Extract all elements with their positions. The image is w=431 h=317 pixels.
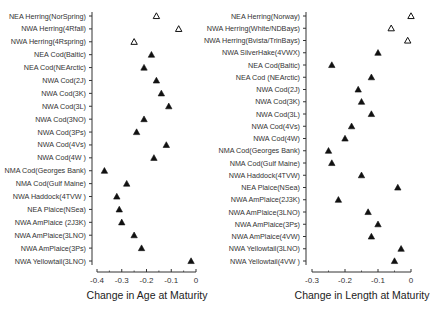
- filled-triangle-marker-icon: [163, 142, 169, 148]
- category-label: NWA AmPlaice (2J3K): [15, 218, 86, 227]
- filled-triangle-marker-icon: [153, 77, 159, 83]
- category-label: NWA Haddock(4TVW): [229, 171, 300, 180]
- category-label: NWA AmPlaice(3Ps): [21, 244, 86, 253]
- category-label: NWA Cod(3Ps): [38, 128, 86, 137]
- category-label: NWA Cod(2J): [42, 76, 86, 85]
- open-triangle-marker-icon: [405, 37, 411, 43]
- x-tick-label: -0.3: [305, 276, 319, 285]
- category-label: NWA AmPlaice(3LNO): [228, 208, 300, 217]
- filled-triangle-marker-icon: [151, 155, 157, 161]
- filled-triangle-marker-icon: [358, 99, 364, 105]
- filled-triangle-marker-icon: [141, 64, 147, 70]
- filled-triangle-marker-icon: [375, 50, 381, 56]
- filled-triangle-marker-icon: [329, 62, 335, 68]
- category-label: NEA Plaice(NSea): [27, 205, 86, 214]
- filled-triangle-marker-icon: [342, 135, 348, 141]
- category-label: NWA Herring(4Rspring): [11, 37, 86, 46]
- category-label: NEA Herring(NorSpring): [9, 12, 86, 21]
- category-label: NEA Cod(Baltic): [34, 50, 86, 59]
- filled-triangle-marker-icon: [116, 206, 122, 212]
- open-triangle-marker-icon: [131, 39, 137, 45]
- filled-triangle-marker-icon: [368, 111, 374, 117]
- category-label: NWA Cod(2J): [256, 85, 300, 94]
- category-label: NWA Cod(3K): [255, 97, 300, 106]
- x-tick-label: -0.2: [338, 276, 352, 285]
- filled-triangle-marker-icon: [124, 180, 130, 186]
- filled-triangle-marker-icon: [133, 129, 139, 135]
- filled-triangle-marker-icon: [101, 168, 107, 174]
- category-label: NWA Cod(4Vs): [252, 122, 300, 131]
- x-tick-label: 0: [194, 276, 199, 285]
- category-label: NWA Herring(White/NDBays): [207, 24, 300, 33]
- open-triangle-marker-icon: [153, 13, 159, 19]
- open-triangle-marker-icon: [408, 13, 414, 19]
- category-label: NWA Cod(3L): [42, 102, 86, 111]
- category-label: NWA Yellowtail(3LNO): [229, 244, 300, 253]
- category-label: NWA Herring(Bvista/TrinBays): [204, 36, 300, 45]
- category-label: NEA Cod (NEArctic): [236, 73, 300, 82]
- category-label: NWA Cod(3L): [256, 110, 300, 119]
- filled-triangle-marker-icon: [329, 160, 335, 166]
- filled-triangle-marker-icon: [138, 245, 144, 251]
- x-tick-label: 0: [409, 276, 414, 285]
- x-tick-label: -0.1: [371, 276, 385, 285]
- filled-triangle-marker-icon: [358, 172, 364, 178]
- category-label: NEA Cod(NEArctic): [24, 63, 86, 72]
- category-label: NWA Herring(4Rfall): [21, 24, 86, 33]
- filled-triangle-marker-icon: [158, 90, 164, 96]
- filled-triangle-marker-icon: [119, 219, 125, 225]
- filled-triangle-marker-icon: [395, 184, 401, 190]
- x-tick-label: -0.2: [140, 276, 154, 285]
- category-label: NWA Haddock(4TVW ): [13, 192, 86, 201]
- category-label: NEA Herring(Norway): [231, 12, 300, 21]
- x-tick-label: -0.1: [164, 276, 178, 285]
- x-axis-title: Change in Length at Maturity: [295, 289, 431, 301]
- category-label: NWA AmPlaice(3Ps): [235, 220, 300, 229]
- category-label: NWA Cod(3NO): [35, 115, 86, 124]
- filled-triangle-marker-icon: [335, 197, 341, 203]
- category-label: NWA Cod(3K): [41, 89, 86, 98]
- category-label: NWA Cod(4W ): [37, 153, 86, 162]
- filled-triangle-marker-icon: [391, 258, 397, 264]
- filled-triangle-marker-icon: [355, 86, 361, 92]
- category-label: NWA Cod(4Vs): [38, 140, 86, 149]
- category-label: NMA Cod(Georges Bank): [5, 166, 87, 175]
- category-label: NMA Cod(Gulf Maine): [230, 159, 300, 168]
- category-label: NWA SilverHake(4VWX): [222, 48, 300, 57]
- filled-triangle-marker-icon: [368, 233, 374, 239]
- x-tick-label: -0.4: [90, 276, 104, 285]
- open-triangle-marker-icon: [388, 25, 394, 31]
- filled-triangle-marker-icon: [188, 258, 194, 264]
- filled-triangle-marker-icon: [368, 74, 374, 80]
- filled-triangle-marker-icon: [348, 123, 354, 129]
- category-label: NWA AmPlaice(4VW): [232, 232, 300, 241]
- category-label: NWA AmPlaice(2J3K): [231, 195, 300, 204]
- chart-panel-2: NEA Herring(Norway)NWA Herring(White/NDB…: [204, 12, 430, 302]
- category-label: NEA Cod(Baltic): [248, 61, 300, 70]
- filled-triangle-marker-icon: [148, 51, 154, 57]
- filled-triangle-marker-icon: [131, 232, 137, 238]
- filled-triangle-marker-icon: [141, 116, 147, 122]
- filled-triangle-marker-icon: [365, 209, 371, 215]
- filled-triangle-marker-icon: [375, 221, 381, 227]
- category-label: NWA AmPlaice(3LNO): [14, 231, 86, 240]
- filled-triangle-marker-icon: [114, 193, 120, 199]
- chart-panel-1: NEA Herring(NorSpring)NWA Herring(4Rfall…: [5, 12, 209, 302]
- x-tick-label: -0.3: [115, 276, 129, 285]
- x-axis-title: Change in Age at Maturity: [87, 289, 209, 301]
- category-label: NEA Plaice(NSea): [241, 183, 300, 192]
- category-label: NWA Yellowtail(3LNO): [15, 257, 86, 266]
- filled-triangle-marker-icon: [166, 103, 172, 109]
- category-label: NWA Yellowtail(4VW ): [230, 257, 300, 266]
- open-triangle-marker-icon: [175, 26, 181, 32]
- filled-triangle-marker-icon: [398, 246, 404, 252]
- category-label: NMA Cod(Gulf Maine): [16, 179, 86, 188]
- filled-triangle-marker-icon: [325, 148, 331, 154]
- category-label: NWA Cod(4W): [253, 134, 300, 143]
- category-label: NMA Cod(Georges Bank): [219, 146, 301, 155]
- maturity-change-charts: NEA Herring(NorSpring)NWA Herring(4Rfall…: [0, 0, 431, 317]
